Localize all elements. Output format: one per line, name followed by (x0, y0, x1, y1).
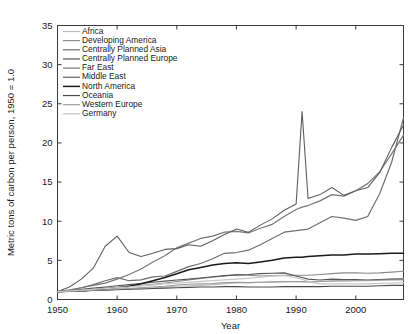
series-line-far-east (58, 135, 404, 292)
y-tick-label: 35 (42, 20, 53, 31)
series-line-middle-east (58, 112, 404, 292)
series-line-centrally-planned-asia (58, 118, 404, 292)
chart-legend: AfricaDeveloping AmericaCentrally Planne… (63, 26, 178, 118)
x-tick-label: 1950 (47, 304, 68, 315)
y-tick-label: 10 (42, 216, 53, 227)
x-tick-label: 1970 (166, 304, 187, 315)
x-tick-label: 1990 (286, 304, 307, 315)
y-tick-label: 30 (42, 59, 53, 70)
x-tick-label: 1960 (107, 304, 128, 315)
x-tick-label: 1980 (226, 304, 247, 315)
y-tick-label: 25 (42, 98, 53, 109)
chart-figure: 05101520253035195019601970198019902000 A… (0, 0, 419, 334)
y-axis-title: Metric tons of carbon per person, 1950 =… (5, 69, 16, 256)
x-axis-title: Year (221, 320, 240, 331)
y-tick-label: 5 (47, 255, 52, 266)
legend-label-germany: Germany (82, 108, 117, 118)
line-chart: 05101520253035195019601970198019902000 A… (0, 0, 419, 334)
y-tick-label: 20 (42, 137, 53, 148)
series-layer (58, 112, 404, 292)
y-tick-label: 15 (42, 176, 53, 187)
x-tick-label: 2000 (345, 304, 366, 315)
